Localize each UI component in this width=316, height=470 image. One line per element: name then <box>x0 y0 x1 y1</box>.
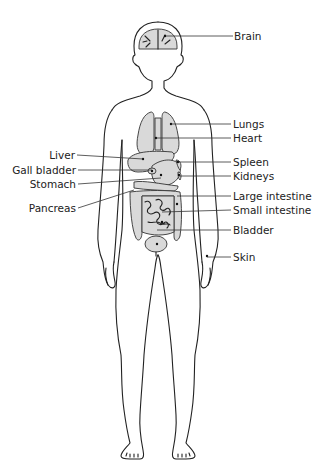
label-small-intestine: Small intestine <box>233 204 311 216</box>
brain-organ <box>139 29 177 49</box>
label-spleen: Spleen <box>233 156 269 168</box>
label-kidneys: Kidneys <box>233 170 274 182</box>
label-stomach: Stomach <box>30 178 76 190</box>
label-skin: Skin <box>233 251 255 263</box>
body-organs-diagram: Brain Lungs Heart Spleen Kidneys Large i… <box>0 0 316 470</box>
label-brain: Brain <box>234 30 262 42</box>
label-gall-bladder: Gall bladder <box>12 164 76 176</box>
abdominal-organs <box>128 151 181 191</box>
lungs-organ <box>137 112 179 155</box>
label-lungs: Lungs <box>233 118 264 130</box>
label-heart: Heart <box>233 132 262 144</box>
label-liver: Liver <box>49 149 75 161</box>
label-large-intestine: Large intestine <box>233 190 312 202</box>
label-bladder: Bladder <box>233 224 274 236</box>
label-pancreas: Pancreas <box>29 202 76 214</box>
